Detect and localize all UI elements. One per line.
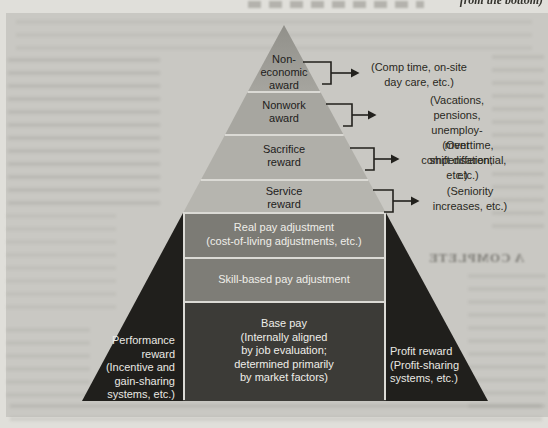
tier-sacrifice-label: Sacrifice reward	[263, 143, 305, 169]
tier-nonwork-label: Nonwork award	[262, 99, 305, 125]
arrowhead-icon	[368, 111, 377, 120]
scanned-book-page: A COMPLETE from the bottom)	[0, 0, 548, 428]
band-real-pay-label: Real pay adjustment (cost-of-living adju…	[206, 220, 361, 248]
tier-sacrifice-annotation: (Overtime, shift differential, etc.)	[428, 138, 508, 183]
tier-service-annotation: (Seniority increases, etc.)	[433, 184, 508, 214]
band-base-pay-label: Base pay (Internally aligned by job eval…	[234, 317, 334, 385]
band-skill-pay-label: Skill-based pay adjustment	[218, 272, 349, 286]
wing-performance-label: Performance reward (Incentive and gain-s…	[106, 334, 175, 402]
tier-noneconomic-annotation: (Comp time, on-site day care, etc.)	[371, 60, 467, 90]
wing-profit-label: Profit reward (Profit-sharing systems, e…	[390, 345, 459, 386]
arrowhead-icon	[391, 155, 400, 164]
arrowhead-icon	[351, 69, 360, 78]
arrowhead-icon	[411, 197, 420, 206]
tier-noneconomic-label: Non- economic award	[260, 53, 307, 92]
tier-service-label: Service reward	[266, 185, 303, 211]
